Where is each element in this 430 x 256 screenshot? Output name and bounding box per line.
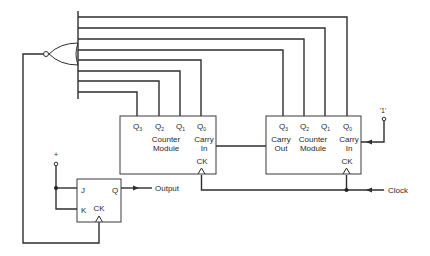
- clock-label: Clock: [388, 186, 409, 195]
- counter-circuit-diagram: Q3 Q2 Q1 Q0 Counter Module Carry In CK Q…: [0, 0, 430, 256]
- right-module-title-1: Counter: [299, 135, 328, 144]
- output-arrow-icon: [133, 186, 139, 191]
- j-label: J: [81, 186, 85, 195]
- right-carry-in-label-1: Carry: [339, 135, 359, 144]
- k-label: K: [81, 206, 87, 215]
- right-carry-out-label-2: Out: [275, 144, 289, 153]
- plus-terminal-icon: [54, 162, 58, 166]
- left-carry-in-label-2: In: [201, 144, 208, 153]
- nor-gate: [44, 43, 79, 65]
- q-label: Q: [112, 186, 118, 195]
- left-ck-label: CK: [196, 157, 208, 166]
- logic-one-label: '1': [380, 107, 387, 114]
- left-carry-in-label-1: Carry: [194, 135, 214, 144]
- clock-junction-dot: [345, 188, 349, 192]
- bus-left-q3: [78, 92, 137, 117]
- bus-left-q0: [78, 60, 201, 117]
- logic-one-wire: [361, 121, 384, 142]
- nor-inversion-bubble: [44, 52, 49, 57]
- bus-left-q1: [78, 71, 180, 117]
- right-carry-in-label-2: In: [346, 144, 353, 153]
- right-module-title-2: Module: [300, 144, 327, 153]
- left-module-title-1: Counter: [152, 135, 181, 144]
- jk-flipflop: J K Q CK: [77, 179, 121, 222]
- right-ck-label: CK: [341, 157, 353, 166]
- ff-ck-label: CK: [93, 204, 105, 213]
- counter-module-right: Q3 Q2 Q1 Q0 Carry Out Counter Module Car…: [266, 116, 361, 174]
- clock-arrow-icon: [366, 188, 372, 193]
- left-module-title-2: Module: [153, 144, 180, 153]
- jk-junction-dot: [54, 186, 58, 190]
- output-label: Output: [155, 184, 180, 193]
- right-carry-out-label-1: Carry: [271, 135, 291, 144]
- logic-one-arrow-icon: [366, 140, 372, 145]
- bus-left-q2: [78, 81, 159, 117]
- clock-to-left-counter-wire: [202, 175, 347, 190]
- logic-one-terminal-icon: [382, 117, 386, 121]
- counter-module-left: Q3 Q2 Q1 Q0 Counter Module Carry In CK: [120, 116, 216, 174]
- plus-label: +: [54, 151, 58, 158]
- bus-right-q0: [78, 17, 347, 117]
